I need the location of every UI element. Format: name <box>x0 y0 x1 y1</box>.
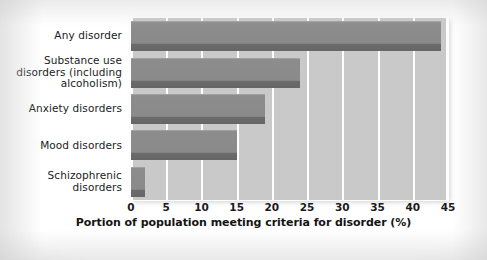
bar-chart-figure: Any disorderSubstance usedisorders (incl… <box>0 0 487 260</box>
x-tick-40: 40 <box>398 201 428 213</box>
bar-row <box>131 167 448 197</box>
category-label-3: Anxiety disorders <box>0 103 122 115</box>
bar-any-disorder <box>131 21 441 51</box>
category-label-5: Schizophrenicdisorders <box>0 170 122 193</box>
category-label-1: Any disorder <box>0 30 122 42</box>
bar-substance-use-disorders-including-alcoholism <box>131 58 300 88</box>
x-tick-10: 10 <box>186 201 216 213</box>
category-label-line: alcoholism) <box>0 78 122 90</box>
bar-anxiety-disorders <box>131 94 265 124</box>
x-tick-35: 35 <box>363 201 393 213</box>
x-tick-5: 5 <box>151 201 181 213</box>
bar-row <box>131 21 448 51</box>
x-tick-0: 0 <box>116 201 146 213</box>
x-tick-30: 30 <box>327 201 357 213</box>
category-label-4: Mood disorders <box>0 140 122 152</box>
x-tick-25: 25 <box>292 201 322 213</box>
bar-series <box>131 18 448 200</box>
bar-row <box>131 94 448 124</box>
bar-row <box>131 130 448 160</box>
category-label-line: disorders <box>0 182 122 194</box>
x-tick-15: 15 <box>222 201 252 213</box>
category-label-2: Substance usedisorders (includingalcohol… <box>0 55 122 90</box>
category-label-line: Anxiety disorders <box>0 103 122 115</box>
bar-schizophrenic-disorders <box>131 167 145 197</box>
x-axis-title: Portion of population meeting criteria f… <box>0 216 487 229</box>
x-tick-45: 45 <box>433 201 463 213</box>
x-axis-tick-labels: 051015202530354045 <box>0 201 487 217</box>
bar-mood-disorders <box>131 130 237 160</box>
bar-row <box>131 58 448 88</box>
x-tick-20: 20 <box>257 201 287 213</box>
plot-area <box>131 18 448 200</box>
category-axis-labels: Any disorderSubstance usedisorders (incl… <box>0 18 126 200</box>
category-label-line: Mood disorders <box>0 140 122 152</box>
category-label-line: Any disorder <box>0 30 122 42</box>
